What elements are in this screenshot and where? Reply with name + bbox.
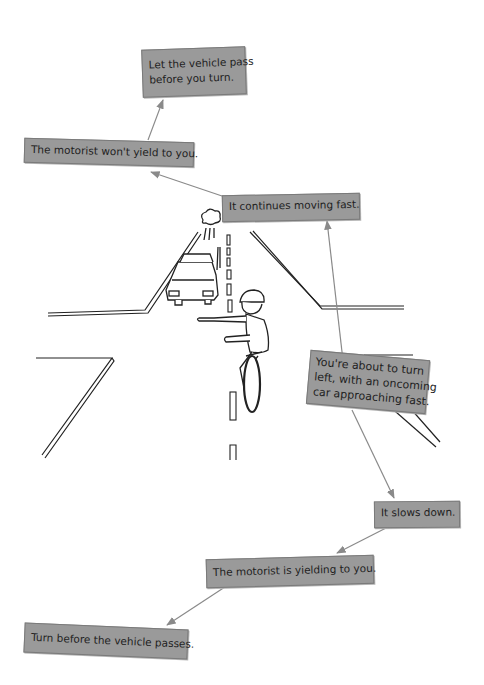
car-illustration	[166, 209, 220, 305]
interpretation-wont-yield-box: The motorist won't yield to you.	[24, 138, 195, 167]
event-slows-down-text: It slows down.	[381, 506, 456, 519]
arrow-yielding-to-turnbefore	[167, 585, 228, 625]
interpretation-yielding-box: The motorist is yielding to you.	[206, 555, 375, 588]
interpretation-wont-yield-text: The motorist won't yield to you.	[31, 143, 199, 159]
arrow-scenario-to-slow	[352, 410, 394, 498]
event-continues-fast-box: It continues moving fast.	[222, 193, 360, 222]
arrow-wontyield-to-letpass	[148, 100, 163, 140]
arrow-fast-to-wontyield	[151, 172, 222, 196]
interpretation-yielding-text: The motorist is yielding to you.	[213, 562, 376, 578]
event-continues-fast-text: It continues moving fast.	[229, 198, 360, 212]
action-line-2: before you turn.	[149, 69, 239, 87]
scenario-box: You're about to turn left, with an oncom…	[306, 350, 430, 414]
center-line	[227, 235, 236, 460]
arrow-slow-to-yielding	[337, 527, 388, 553]
action-turn-before-text: Turn before the vehicle passes.	[31, 631, 195, 650]
road-edges	[36, 231, 440, 458]
event-slows-down-box: It slows down.	[374, 501, 460, 529]
action-let-vehicle-pass-box: Let the vehicle pass before you turn.	[141, 46, 247, 98]
